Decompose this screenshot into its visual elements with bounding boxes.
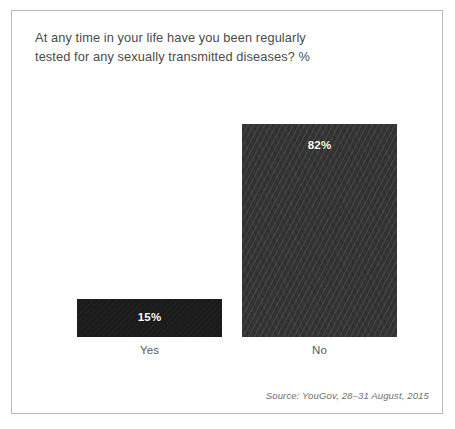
source-note: Source: YouGov, 28–31 August, 2015 (266, 390, 429, 401)
bar-label-no: No (242, 344, 397, 356)
chart-frame: At any time in your life have you been r… (11, 10, 443, 414)
bar-group-no: 82% No (242, 124, 397, 337)
bar-value-yes: 15% (77, 311, 222, 323)
bar-value-no: 82% (242, 139, 397, 151)
bar-group-yes: 15% Yes (77, 299, 222, 337)
bar-no[interactable]: 82% (242, 124, 397, 337)
plot-area: 15% Yes 82% No (12, 11, 442, 413)
bar-yes[interactable]: 15% (77, 299, 222, 337)
bar-label-yes: Yes (77, 344, 222, 356)
